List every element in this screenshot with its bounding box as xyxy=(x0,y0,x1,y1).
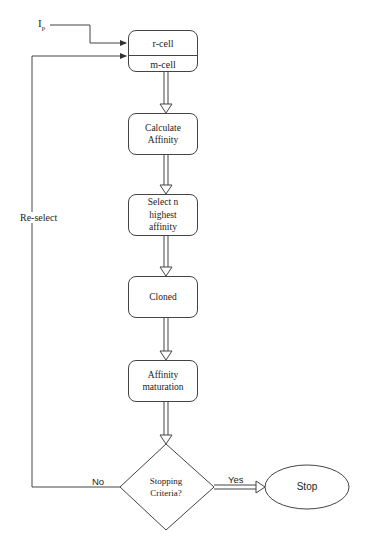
yes-label: Yes xyxy=(228,474,244,485)
step-text-line: maturation xyxy=(142,381,183,393)
connector-layer xyxy=(0,0,366,547)
decision-text-line: Stopping xyxy=(150,475,183,487)
input-label: Ip xyxy=(38,17,45,32)
cell-box: r-cell m-cell xyxy=(128,30,198,72)
step-text-line: highest xyxy=(148,209,178,222)
decision-text-line: Criteria? xyxy=(150,487,183,499)
cloned-box: Cloned xyxy=(128,276,198,318)
affinity-maturation-box: Affinity maturation xyxy=(128,360,198,402)
step-text-line: Affinity xyxy=(142,369,183,381)
reselect-label: Re-select xyxy=(20,212,57,223)
r-cell-label: r-cell xyxy=(129,31,197,55)
step-text-line: Calculate xyxy=(145,122,181,134)
stop-text: Stop xyxy=(280,479,334,495)
calculate-affinity-box: Calculate Affinity xyxy=(128,113,198,155)
input-arrow xyxy=(50,25,126,43)
step-text-line: Cloned xyxy=(149,291,176,303)
decision-text: Stopping Criteria? xyxy=(136,472,196,502)
m-cell-label: m-cell xyxy=(129,56,197,72)
step-text-line: Affinity xyxy=(145,134,181,146)
reselect-loop-line xyxy=(32,56,126,487)
no-label: No xyxy=(92,476,104,487)
input-label-subscript: p xyxy=(42,24,46,32)
select-highest-affinity-box: Select n highest affinity xyxy=(128,194,198,236)
step-text-line: Select n xyxy=(148,196,178,209)
step-text-line: affinity xyxy=(148,221,178,234)
